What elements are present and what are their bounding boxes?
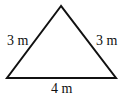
right-side-label: 3 m (96, 34, 117, 48)
base-label: 4 m (51, 82, 72, 96)
triangle-diagram: 3 m 3 m 4 m (0, 0, 124, 99)
left-side-label: 3 m (7, 34, 28, 48)
